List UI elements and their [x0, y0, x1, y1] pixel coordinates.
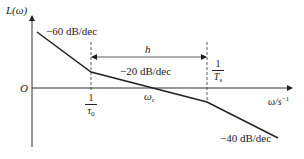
x-axis-label-exponent: −1: [282, 95, 289, 103]
slope-label-2: −20 dB/dec: [120, 66, 171, 77]
crossover-omega: ω: [144, 90, 152, 102]
origin-label: O: [20, 83, 28, 94]
span-h-label: h: [145, 44, 151, 55]
crossover-sub: c: [152, 96, 155, 104]
x-axis-label-text: ω/s: [268, 96, 282, 107]
magnitude-asymptote: [37, 32, 278, 138]
crossover-label: ωc: [144, 91, 155, 104]
breakpoint-1-label: 1 τ0: [85, 93, 97, 118]
breakpoint-2-numerator: 1: [212, 59, 224, 69]
x-axis-label: ω/s−1: [268, 96, 289, 107]
breakpoint-1-numerator: 1: [85, 93, 97, 103]
slope-label-3: −40 dB/dec: [220, 133, 271, 144]
breakpoint-2-label: 1 Ts: [212, 59, 224, 84]
y-axis-label: L(ω): [6, 5, 27, 16]
slope-label-1: −60 dB/dec: [46, 26, 97, 37]
breakpoint-1-denominator-sub: 0: [91, 110, 95, 118]
breakpoint-2-denominator-sub: s: [219, 76, 222, 84]
